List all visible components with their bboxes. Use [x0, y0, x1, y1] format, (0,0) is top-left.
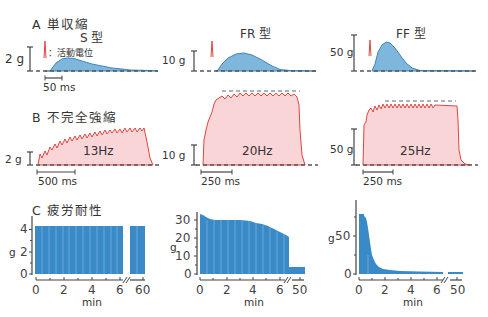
fatigue-s-xtick: 4 [88, 284, 96, 296]
fatigue-fr-ytick: 20 [175, 232, 190, 244]
twitch-s-time-label: 50 ms [43, 82, 75, 93]
fatigue-ff-xtick: 50 [450, 284, 465, 296]
fatigue-ff-chart [353, 200, 463, 283]
tetanus-s-time-label: 500 ms [38, 176, 77, 187]
section-b-label: B 不完全強縮 [32, 112, 117, 125]
tetanus-fr-plot [191, 91, 318, 175]
tetanus-s-scale-label: 2 g [5, 154, 22, 165]
tetanus-fr-freq-label: 20Hz [242, 145, 273, 157]
fiber-type-s-label: S 型 [80, 32, 103, 44]
fatigue-fr-xtick: 6 [276, 284, 284, 296]
twitch-ff-scale-label: 50 g [330, 47, 353, 58]
tetanus-ff-time-label: 250 ms [363, 176, 402, 187]
section-a-label: A 単収縮 [32, 19, 89, 32]
twitch-fr-plot [191, 41, 318, 71]
fatigue-fr-xtick: 4 [249, 284, 257, 296]
fatigue-fr-xtick: 50 [292, 284, 307, 296]
fiber-type-fr-label: FR 型 [240, 28, 271, 40]
fatigue-fr-ytick: 10 [175, 250, 190, 262]
fatigue-ff-xtick: 0 [355, 284, 363, 296]
action-potential-legend: ：活動電位 [48, 49, 93, 58]
fatigue-s-xtick: 60 [135, 284, 150, 296]
fatigue-fr-xtick: 2 [223, 284, 231, 296]
fatigue-s-xlabel: min [82, 297, 102, 308]
fatigue-ff-xlabel: min [403, 297, 423, 308]
fatigue-s-ytick: 0 [20, 268, 28, 280]
tetanus-ff-freq-label: 25Hz [400, 145, 431, 157]
fatigue-s-ylabel: g [9, 247, 16, 258]
fatigue-fr-ytick: 30 [175, 214, 190, 226]
tetanus-ff-plot [351, 101, 478, 175]
twitch-s-scale-label: 2 g [5, 53, 24, 65]
fatigue-ff-ylabel: g [328, 233, 335, 244]
fatigue-fr-xtick: 0 [196, 284, 204, 296]
fatigue-ff-xtick: 4 [407, 284, 415, 296]
tetanus-fr-time-label: 250 ms [201, 176, 240, 187]
fatigue-s-ytick: 4 [20, 223, 28, 235]
fatigue-ff-ytick: 0 [344, 268, 352, 280]
tetanus-fr-scale-label: 10 g [162, 150, 185, 161]
tetanus-s-freq-label: 13Hz [83, 145, 114, 157]
section-c-label: C 疲労耐性 [32, 205, 103, 218]
fatigue-ff-xtick: 2 [381, 284, 389, 296]
fatigue-fr-chart [194, 212, 305, 283]
fatigue-ff-ytick: 50 [335, 230, 350, 242]
fatigue-fr-ytick: 0 [184, 268, 192, 280]
fatigue-s-chart [29, 216, 145, 283]
fiber-type-ff-label: FF 型 [396, 28, 426, 40]
twitch-fr-scale-label: 10 g [162, 55, 185, 66]
fatigue-fr-ylabel: g [170, 242, 177, 253]
fatigue-ff-xtick: 6 [433, 284, 441, 296]
tetanus-ff-scale-label: 50 g [330, 144, 353, 155]
fatigue-s-xtick: 6 [116, 284, 124, 296]
fatigue-s-xtick: 2 [60, 284, 68, 296]
twitch-s-plot [27, 41, 158, 81]
fatigue-fr-xlabel: min [244, 297, 264, 308]
fatigue-s-ytick: 2 [20, 246, 28, 258]
fatigue-s-xtick: 0 [32, 284, 40, 296]
